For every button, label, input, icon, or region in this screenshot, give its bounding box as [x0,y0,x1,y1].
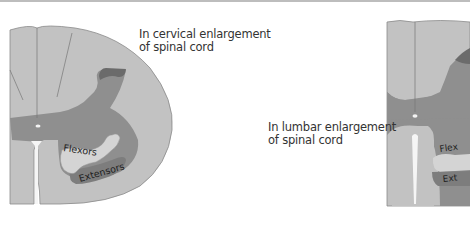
leg-icon [433,154,470,172]
cervical-caption: In cervical enlargement of spinal cord [139,28,271,54]
lumbar-caption-line2: of spinal cord [268,134,396,147]
cervical-caption-line2: of spinal cord [139,41,271,54]
lumbar-cross-section: Flex Ext [387,21,470,207]
lumbar-extensors-label: Ext [442,172,458,184]
lumbar-caption: In lumbar enlargement of spinal cord [268,121,396,147]
